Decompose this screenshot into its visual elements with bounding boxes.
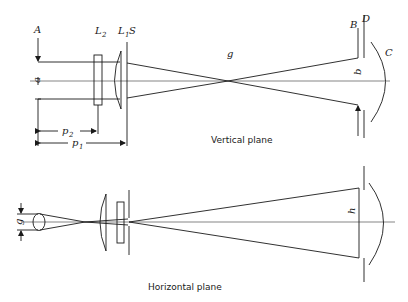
- mirror-c-horizontal: [369, 183, 384, 265]
- label-b-dimension: b: [352, 69, 363, 75]
- ray-source-top: [40, 214, 85, 222]
- label-p2: p: [62, 125, 69, 136]
- caption-vertical-plane: Vertical plane: [211, 135, 273, 145]
- label-c: C: [385, 47, 393, 58]
- ray-diverge-top: [228, 58, 358, 81]
- ray-source-bottom: [40, 222, 85, 230]
- label-p1: p: [72, 137, 79, 148]
- horizontal-plane-diagram: g h Horizontal plane: [13, 166, 395, 292]
- label-g-vertical: g: [227, 48, 233, 59]
- mirror-c: [371, 42, 386, 122]
- label-d: D: [361, 13, 370, 24]
- ray-converge-bottom: [127, 81, 228, 98]
- ray-converge-top: [127, 63, 228, 81]
- lens-l1-curve: [115, 51, 122, 109]
- label-l1: L: [117, 25, 125, 36]
- lens-l1-curve-horizontal: [100, 194, 106, 251]
- label-s: S: [129, 25, 136, 36]
- ray-mid-1: [85, 219, 128, 222]
- label-b: B: [349, 19, 357, 30]
- optical-diagram: A a L 2 L 1 S g B D C b p 2 p 1 Vertical…: [0, 0, 408, 302]
- label-h: h: [346, 208, 357, 214]
- lens-l2-plate: [94, 55, 102, 105]
- label-a-dimension: a: [31, 77, 42, 83]
- vertical-plane-diagram: A a L 2 L 1 S g B D C b p 2 p 1 Vertical…: [30, 13, 393, 151]
- label-l2-sub: 2: [101, 31, 107, 39]
- ray-mid-2: [85, 222, 128, 225]
- label-g-horizontal: g: [13, 219, 24, 225]
- label-a-upper: A: [33, 24, 41, 35]
- lens-l2-plate-horizontal: [117, 202, 124, 243]
- ray-long-top: [129, 188, 359, 222]
- caption-horizontal-plane: Horizontal plane: [148, 282, 222, 292]
- ray-diverge-bottom: [228, 81, 358, 105]
- ray-long-bottom: [129, 222, 359, 258]
- label-l2: L: [94, 25, 102, 36]
- label-p1-sub: 1: [79, 143, 83, 151]
